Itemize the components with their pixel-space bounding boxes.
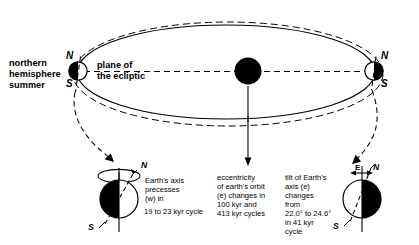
obliquity-leader-arrow (352, 90, 377, 164)
precession-leader-arrow (74, 92, 114, 162)
precession-south-pole-label: S (88, 222, 94, 232)
diagram-canvas: northern hemisphere summer plane of the … (0, 0, 419, 245)
precession-north-pole-label: N (141, 160, 147, 170)
northern-hemisphere-summer-label: northern hemisphere summer (9, 58, 61, 91)
precession-callout-text: Earth's axis precesses (w) in (145, 177, 184, 204)
obliquity-inset (343, 165, 381, 232)
precession-inset (98, 168, 140, 232)
obliquity-north-pole-label: N (373, 162, 379, 172)
precession-cycle-text: 19 to 23 kyr cycle (144, 208, 203, 217)
obliquity-south-pole-label: S (333, 221, 339, 231)
earth-left-north-pole-label: N (66, 50, 73, 62)
earth-right-north-pole-label: N (381, 50, 388, 62)
plane-of-ecliptic-label: plane of the ecliptic (97, 60, 145, 82)
sun-body (235, 58, 262, 85)
eccentricity-callout-text: eccentricity of earth's orbit (e) change… (217, 174, 265, 219)
obliquity-angle-e-label: E (355, 163, 360, 172)
earth-left-south-pole-label: S (66, 78, 73, 90)
earth-right-south-pole-label: S (381, 78, 388, 90)
orbital-cycles-svg (0, 0, 419, 245)
obliquity-callout-text: tilt of Earth's axis (e) changes from 22… (285, 174, 331, 237)
